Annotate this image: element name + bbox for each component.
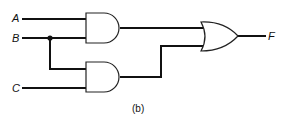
and-gate-1 [86, 13, 119, 43]
and-gate-2 [86, 62, 119, 92]
wire-and2-out [120, 46, 204, 77]
input-label-c: C [12, 82, 20, 94]
figure-caption: (b) [132, 103, 144, 114]
input-label-b: B [12, 32, 19, 44]
output-label-f: F [268, 30, 276, 42]
logic-circuit: A B C F (b) [0, 0, 286, 117]
junction-dot [47, 35, 52, 40]
input-label-a: A [11, 12, 19, 24]
or-gate [201, 22, 238, 51]
wire-b-branch [50, 38, 86, 69]
